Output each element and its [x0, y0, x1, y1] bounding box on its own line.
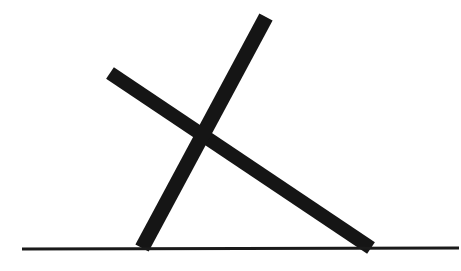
- ground-line: [22, 248, 459, 249]
- canvas-background: [0, 0, 461, 271]
- figure-canvas: [0, 0, 461, 271]
- figure-svg: [0, 0, 461, 271]
